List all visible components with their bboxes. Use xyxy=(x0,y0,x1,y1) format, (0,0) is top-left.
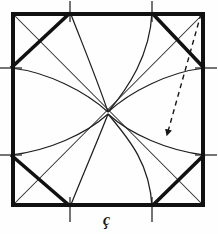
arc-right-upper xyxy=(108,68,205,112)
figure-canvas: ç xyxy=(0,0,218,234)
caption-label-c: ç xyxy=(103,212,110,228)
geometric-figure-svg xyxy=(0,0,218,234)
arc-bottom-right xyxy=(108,114,152,207)
arc-top-right xyxy=(108,12,152,112)
arc-right-lower xyxy=(108,114,205,155)
arc-left-upper xyxy=(11,68,108,112)
